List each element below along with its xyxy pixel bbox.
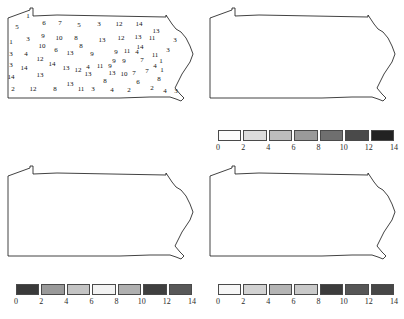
- legend-swatch: [320, 284, 343, 295]
- state-outline: [210, 8, 395, 101]
- legend-swatch: [345, 284, 368, 295]
- legend-tick-label: 14: [390, 142, 398, 153]
- legend-swatch: [371, 284, 394, 295]
- state-outline: [210, 166, 395, 259]
- legend-tick-label: 6: [89, 296, 93, 307]
- legend-bar: [16, 284, 192, 295]
- choropleth-2-svg: [202, 2, 404, 127]
- legend-tick-label: 0: [216, 142, 220, 153]
- map-choropleth-2: [202, 2, 404, 127]
- legend-swatch: [371, 130, 394, 141]
- legend-tick-label: 4: [64, 296, 68, 307]
- legend-swatch: [218, 130, 241, 141]
- state-outline: [8, 166, 193, 259]
- legend-tick-label: 10: [138, 296, 146, 307]
- legend-ticks: 02468101214: [218, 296, 394, 309]
- legend-swatch: [243, 130, 266, 141]
- figure-canvas: 1567531214131391081312131131068143341399…: [0, 0, 404, 319]
- map-choropleth-3: [0, 160, 202, 285]
- legend-tick-label: 10: [340, 142, 348, 153]
- reference-map-svg: [0, 2, 202, 127]
- legend-swatch: [269, 130, 292, 141]
- panel-choropleth-4: 02468101214: [202, 160, 404, 318]
- legend-tick-label: 4: [266, 142, 270, 153]
- legend-bar: [218, 130, 394, 141]
- legend-choropleth-4: 02468101214: [218, 284, 394, 310]
- legend-choropleth-3: 02468101214: [16, 284, 192, 310]
- legend-swatch: [345, 130, 368, 141]
- legend-tick-label: 6: [291, 296, 295, 307]
- legend-swatch: [320, 130, 343, 141]
- legend-tick-label: 12: [365, 142, 373, 153]
- legend-swatch: [169, 284, 192, 295]
- legend-swatch: [243, 284, 266, 295]
- legend-tick-label: 8: [317, 142, 321, 153]
- legend-ticks: 02468101214: [218, 142, 394, 155]
- legend-swatch: [41, 284, 64, 295]
- legend-tick-label: 0: [216, 296, 220, 307]
- legend-tick-label: 2: [241, 142, 245, 153]
- legend-tick-label: 14: [390, 296, 398, 307]
- legend-ticks: 02468101214: [16, 296, 192, 309]
- legend-tick-label: 4: [266, 296, 270, 307]
- legend-choropleth-2: 02468101214: [218, 130, 394, 156]
- legend-swatch: [118, 284, 141, 295]
- legend-tick-label: 6: [291, 142, 295, 153]
- legend-tick-label: 10: [340, 296, 348, 307]
- legend-swatch: [294, 284, 317, 295]
- legend-tick-label: 12: [365, 296, 373, 307]
- legend-tick-label: 14: [188, 296, 196, 307]
- legend-bar: [218, 284, 394, 295]
- legend-tick-label: 2: [241, 296, 245, 307]
- panel-reference-map: 1567531214131391081312131131068143341399…: [0, 2, 202, 152]
- legend-swatch: [143, 284, 166, 295]
- legend-swatch: [218, 284, 241, 295]
- legend-tick-label: 8: [317, 296, 321, 307]
- legend-swatch: [16, 284, 39, 295]
- panel-choropleth-2: 02468101214: [202, 2, 404, 160]
- legend-tick-label: 0: [14, 296, 18, 307]
- choropleth-4-svg: [202, 160, 404, 285]
- legend-tick-label: 12: [163, 296, 171, 307]
- legend-swatch: [269, 284, 292, 295]
- legend-swatch: [67, 284, 90, 295]
- legend-tick-label: 8: [115, 296, 119, 307]
- legend-tick-label: 2: [39, 296, 43, 307]
- choropleth-3-svg: [0, 160, 202, 285]
- legend-swatch: [294, 130, 317, 141]
- map-choropleth-4: [202, 160, 404, 285]
- state-outline: [8, 8, 193, 101]
- map-reference: 1567531214131391081312131131068143341399…: [0, 2, 202, 127]
- panel-choropleth-3: 02468101214: [0, 160, 202, 318]
- legend-swatch: [92, 284, 115, 295]
